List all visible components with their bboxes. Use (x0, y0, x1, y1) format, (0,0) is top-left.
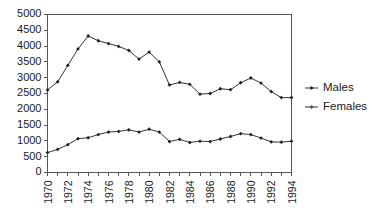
data-point (259, 136, 263, 140)
data-point (86, 136, 90, 140)
data-point (208, 92, 212, 96)
x-axis: 1970197219741976197819801982198419861988… (42, 173, 298, 204)
y-tick-label: 5000 (17, 7, 41, 19)
line-chart: 0500100015002000250030003500400045005000… (0, 0, 374, 219)
x-tick-label: 1984 (184, 180, 196, 204)
series-line-males (48, 36, 292, 98)
data-point (249, 76, 253, 80)
data-point (178, 137, 182, 141)
series-males (46, 34, 294, 99)
y-tick-label: 1500 (17, 118, 41, 130)
data-point (127, 128, 131, 132)
chart-legend: MalesFemales (305, 81, 367, 112)
y-tick-label: 4500 (17, 23, 41, 35)
data-point (107, 130, 111, 134)
y-tick-label: 3000 (17, 71, 41, 83)
data-point (188, 141, 192, 145)
data-point (218, 87, 222, 91)
y-tick-label: 2500 (17, 86, 41, 98)
x-tick-label: 1992 (265, 180, 277, 204)
data-point (208, 140, 212, 144)
legend-label: Females (323, 100, 367, 112)
data-point (239, 132, 243, 136)
y-tick-label: 0 (35, 165, 41, 177)
series-females (46, 127, 294, 154)
x-tick-label: 1990 (245, 180, 257, 204)
data-point (117, 45, 121, 49)
data-point (218, 137, 222, 141)
data-point (290, 96, 294, 100)
data-point (46, 151, 50, 155)
legend-swatch-marker (309, 105, 313, 109)
data-point (229, 135, 233, 139)
data-point (107, 42, 111, 46)
x-tick-label: 1994 (286, 180, 298, 204)
data-point (147, 127, 151, 131)
data-point (269, 140, 273, 144)
x-tick-label: 1980 (143, 180, 155, 204)
y-tick-label: 4000 (17, 39, 41, 51)
data-point (96, 39, 100, 43)
x-tick-label: 1986 (204, 180, 216, 204)
data-point (117, 130, 121, 134)
y-tick-label: 2000 (17, 102, 41, 114)
data-point (178, 81, 182, 85)
x-tick-label: 1974 (82, 180, 94, 204)
series-layer (46, 34, 294, 154)
y-axis: 0500100015002000250030003500400045005000 (17, 7, 291, 177)
data-point (56, 148, 60, 152)
data-point (290, 139, 294, 143)
data-point (96, 133, 100, 137)
x-tick-label: 1970 (42, 180, 54, 204)
y-tick-label: 1000 (17, 134, 41, 146)
data-point (279, 140, 283, 144)
x-tick-label: 1972 (62, 180, 74, 204)
x-tick-label: 1976 (103, 180, 115, 204)
y-tick-label: 3500 (17, 55, 41, 67)
x-tick-label: 1978 (123, 180, 135, 204)
chart-canvas: 0500100015002000250030003500400045005000… (0, 0, 374, 219)
data-point (168, 83, 172, 87)
legend-label: Males (323, 81, 354, 93)
legend-swatch-marker (309, 86, 313, 90)
data-point (137, 130, 141, 134)
x-tick-label: 1982 (164, 180, 176, 204)
data-point (249, 133, 253, 137)
y-tick-label: 500 (23, 150, 41, 162)
x-tick-label: 1988 (225, 180, 237, 204)
data-point (198, 139, 202, 143)
